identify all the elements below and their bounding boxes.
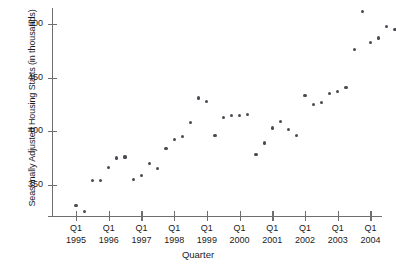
data-point xyxy=(279,120,282,123)
data-point xyxy=(344,86,347,89)
x-axis-line xyxy=(48,216,382,217)
data-point xyxy=(287,128,290,131)
y-tick-label: 450 xyxy=(28,72,43,82)
y-tick: 450 xyxy=(48,78,57,79)
data-point xyxy=(254,153,257,156)
x-tick xyxy=(109,211,110,221)
data-point xyxy=(246,113,249,116)
x-tick xyxy=(370,211,371,221)
data-point xyxy=(115,156,118,159)
data-point xyxy=(123,155,126,158)
data-point xyxy=(91,179,94,182)
data-point xyxy=(271,126,274,129)
x-tick xyxy=(338,211,339,221)
x-tick xyxy=(174,211,175,221)
data-point xyxy=(205,100,208,103)
data-point xyxy=(189,121,192,124)
y-tick-label: 400 xyxy=(28,125,43,135)
data-point xyxy=(238,114,241,117)
x-axis-title: Quarter xyxy=(0,249,396,260)
y-tick-label: 350 xyxy=(28,179,43,189)
x-tick xyxy=(305,211,306,221)
x-tick-year: 2004 xyxy=(348,235,392,247)
data-point xyxy=(99,179,102,182)
y-tick: 350 xyxy=(48,185,57,186)
data-point xyxy=(140,174,143,177)
x-tick xyxy=(207,211,208,221)
data-point xyxy=(148,162,151,165)
x-tick-label: Q12004 xyxy=(348,223,392,246)
data-point xyxy=(385,25,388,28)
data-point xyxy=(156,167,159,170)
data-point xyxy=(328,92,331,95)
data-point xyxy=(83,210,86,213)
x-tick-quarter: Q1 xyxy=(348,223,392,235)
data-point xyxy=(197,96,200,99)
data-point xyxy=(74,204,77,207)
y-tick-label: 500 xyxy=(28,18,43,28)
data-point xyxy=(173,138,176,141)
x-tick xyxy=(272,211,273,221)
data-point xyxy=(230,114,233,117)
x-tick xyxy=(76,211,77,221)
y-tick: 500 xyxy=(48,24,57,25)
x-tick xyxy=(240,211,241,221)
data-point xyxy=(295,134,298,137)
data-point xyxy=(213,134,216,137)
data-point xyxy=(303,94,306,97)
data-point xyxy=(132,178,135,181)
data-point xyxy=(263,141,266,144)
data-point xyxy=(181,135,184,138)
data-point xyxy=(312,103,315,106)
data-point xyxy=(107,166,110,169)
data-point xyxy=(361,10,364,13)
data-point xyxy=(222,116,225,119)
data-point xyxy=(336,90,339,93)
data-point xyxy=(164,147,167,150)
data-point xyxy=(377,36,380,39)
x-tick xyxy=(141,211,142,221)
data-point xyxy=(353,48,356,51)
data-point xyxy=(369,41,372,44)
scatter-chart: Seasonally Adjusted Housing Starts (in t… xyxy=(0,0,396,271)
y-tick: 400 xyxy=(48,131,57,132)
data-point xyxy=(320,101,323,104)
plot-area: 350400450500 Q11995Q11996Q11997Q11998Q11… xyxy=(52,8,382,217)
